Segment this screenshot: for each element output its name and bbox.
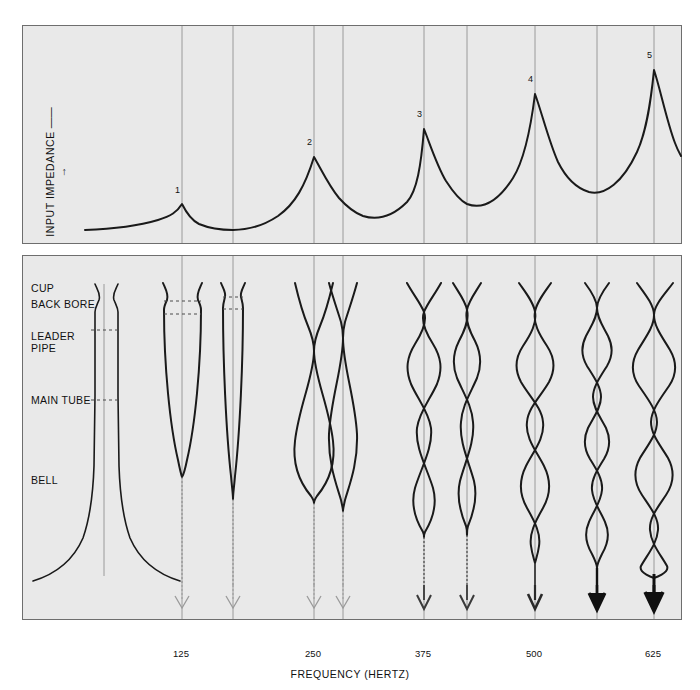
standing-wave-diagram <box>23 256 681 619</box>
peak-label-3: 3 <box>417 109 422 119</box>
part-label-main-tube: MAIN TUBE <box>31 394 91 406</box>
part-label-bell: BELL <box>31 474 58 486</box>
y-axis-label: INPUT IMPEDANCE ——→ <box>44 102 68 242</box>
x-tick-375: 375 <box>393 648 453 659</box>
impedance-chart-panel: 1 2 3 4 5 <box>22 25 682 244</box>
part-label-cup: CUP <box>31 282 54 294</box>
peak-label-4: 4 <box>528 74 533 84</box>
impedance-plot <box>23 26 681 243</box>
frequency-arrows <box>175 585 663 611</box>
impedance-curve <box>85 70 681 230</box>
instrument-bore-profile <box>33 284 180 581</box>
leader-pipe-line-1: LEADER <box>31 330 75 342</box>
x-axis-label: FREQUENCY (HERTZ) <box>0 668 700 680</box>
x-tick-250: 250 <box>283 648 343 659</box>
x-tick-125: 125 <box>151 648 211 659</box>
peak-label-1: 1 <box>175 185 180 195</box>
x-tick-500: 500 <box>504 648 564 659</box>
frequency-arrow-9 <box>645 585 663 611</box>
leader-pipe-line-2: PIPE <box>31 342 56 354</box>
y-axis-label-text: INPUT IMPEDANCE <box>44 131 56 237</box>
frequency-arrow-8 <box>589 585 605 610</box>
peak-label-5: 5 <box>647 50 652 60</box>
part-label-back-bore: BACK BORE <box>31 298 95 310</box>
figure-root: 1 2 3 4 5 INPUT IMPEDANCE ——→ <box>0 0 700 690</box>
part-label-leader-pipe: LEADER PIPE <box>31 330 75 354</box>
x-tick-625: 625 <box>623 648 683 659</box>
peak-label-2: 2 <box>307 137 312 147</box>
gridlines <box>182 26 654 243</box>
standing-wave-panel: CUP BACK BORE LEADER PIPE MAIN TUBE BELL <box>22 255 682 620</box>
y-axis-label-group: INPUT IMPEDANCE ——→ <box>30 60 50 220</box>
